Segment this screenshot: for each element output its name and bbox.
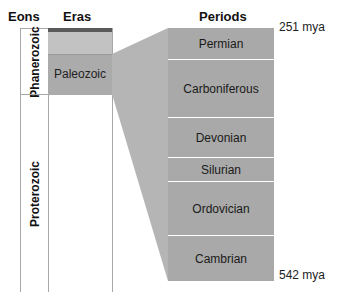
period-silurian: Silurian bbox=[168, 158, 274, 181]
period-permian: Permian bbox=[168, 28, 274, 59]
period-label: Devonian bbox=[196, 131, 247, 145]
period-ordovician: Ordovician bbox=[168, 182, 274, 235]
period-label: Permian bbox=[199, 37, 244, 51]
period-cambrian: Cambrian bbox=[168, 236, 274, 281]
period-label: Cambrian bbox=[195, 252, 247, 266]
period-devonian: Devonian bbox=[168, 118, 274, 157]
period-label: Silurian bbox=[201, 163, 241, 177]
period-label: Carboniferous bbox=[183, 82, 258, 96]
period-carboniferous: Carboniferous bbox=[168, 60, 274, 117]
periods-column: Permian Carboniferous Devonian Silurian … bbox=[168, 28, 274, 281]
time-label-bottom: 542 mya bbox=[279, 268, 325, 282]
period-label: Ordovician bbox=[192, 202, 249, 216]
time-label-top: 251 mya bbox=[279, 20, 325, 34]
